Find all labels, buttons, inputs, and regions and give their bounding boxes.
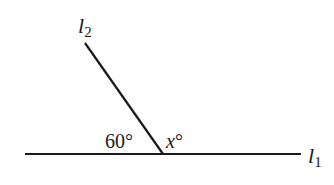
label-l2: l2 <box>78 13 92 40</box>
angle-diagram: l2 l1 60° x° <box>0 0 334 185</box>
label-l1: l1 <box>308 143 322 170</box>
angle-label-x: x° <box>165 130 183 152</box>
angle-label-60: 60° <box>105 130 133 152</box>
